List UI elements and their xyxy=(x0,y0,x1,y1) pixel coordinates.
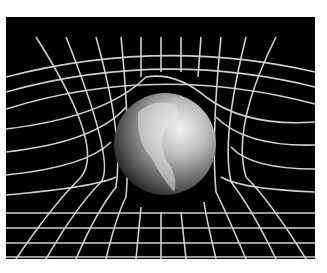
grid-and-globe xyxy=(6,17,315,259)
spacetime-illustration xyxy=(6,17,315,259)
